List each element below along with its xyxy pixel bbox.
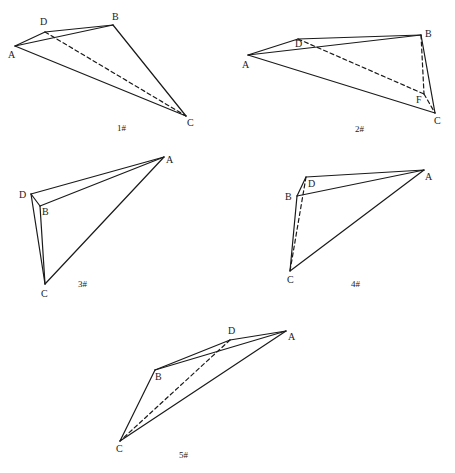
edge-BA [40, 157, 164, 206]
diagram-caption: 2# [355, 124, 365, 134]
vertex-label-D: D [19, 189, 26, 200]
vertex-label-D: D [308, 178, 315, 189]
vertex-label-C: C [116, 443, 123, 454]
vertex-label-C: C [287, 274, 294, 285]
vertex-label-B: B [155, 371, 162, 382]
edge-BC [113, 25, 186, 116]
diagram-caption: 3# [78, 279, 88, 289]
vertex-label-C: C [41, 288, 48, 299]
diagram-2: ADBCF2# [242, 28, 441, 134]
dashed-edge-DC [120, 340, 230, 441]
diagram-1: ADBC1# [8, 11, 194, 133]
edge-AC [15, 46, 186, 116]
edge-BC [120, 370, 155, 441]
edge-BA [155, 331, 286, 370]
diagram-3: ADBC3# [19, 154, 174, 299]
edge-AC [120, 331, 286, 441]
diagram-caption: 5# [179, 450, 189, 460]
diagram-5: ADBC5# [116, 325, 296, 460]
vertex-label-A: A [425, 171, 433, 182]
edge-DB [45, 25, 113, 32]
vertex-label-D: D [295, 38, 302, 49]
vertex-label-B: B [285, 191, 292, 202]
edge-AC [248, 55, 435, 113]
vertex-label-D: D [40, 16, 47, 27]
dashed-edge-DC [45, 32, 186, 116]
vertex-label-A: A [8, 49, 16, 60]
dashed-edge-DF [298, 39, 424, 94]
vertex-label-A: A [166, 154, 174, 165]
diagram-caption: 4# [351, 279, 361, 289]
vertex-label-D: D [228, 325, 235, 336]
edge-BC [40, 206, 45, 284]
edge-AD [15, 32, 45, 46]
edge-DA [230, 331, 286, 340]
dashed-edge-DC [290, 177, 306, 271]
edge-DA [31, 157, 164, 194]
vertex-label-B: B [112, 11, 119, 22]
vertex-label-C: C [187, 117, 194, 128]
vertex-label-B: B [425, 28, 432, 39]
vertex-label-B: B [42, 206, 49, 217]
vertex-label-C: C [434, 115, 441, 126]
vertex-label-F: F [416, 94, 422, 105]
edge-BD [155, 340, 230, 370]
tetrahedron-diagrams: ADBC1#ADBCF2#ADBC3#ADBC4#ADBC5# [0, 0, 455, 473]
diagram-4: ADBC4# [285, 170, 433, 289]
vertex-label-A: A [242, 59, 250, 70]
edge-AC [45, 157, 164, 284]
vertex-label-A: A [288, 331, 296, 342]
diagram-caption: 1# [117, 123, 127, 133]
